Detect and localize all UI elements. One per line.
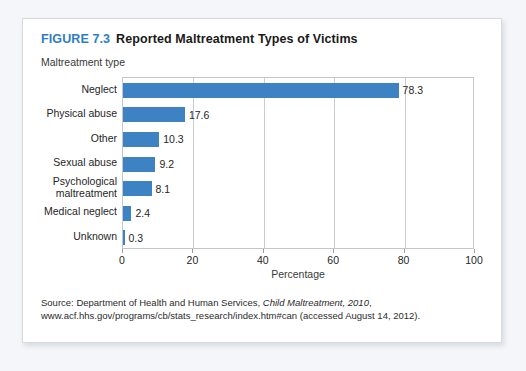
x-tick-mark-0	[122, 249, 123, 253]
bar	[123, 181, 152, 196]
bar-row: 17.6	[123, 107, 475, 122]
category-label: Other	[91, 133, 117, 145]
bar-value-label: 2.4	[135, 207, 150, 219]
bar	[123, 230, 125, 245]
category-label: Medical neglect	[44, 206, 117, 218]
x-axis-title: Percentage	[122, 268, 474, 280]
category-label: Unknown	[73, 231, 117, 243]
bar-value-label: 17.6	[189, 109, 209, 121]
chart-plot-area: 78.317.610.39.28.12.40.3	[122, 77, 474, 249]
category-label-list: NeglectPhysical abuseOtherSexual abusePs…	[23, 77, 117, 249]
bar-value-label: 10.3	[163, 133, 183, 145]
y-axis-title: Maltreatment type	[41, 56, 125, 68]
figure-card: FIGURE 7.3Reported Maltreatment Types of…	[22, 18, 502, 343]
x-axis-ticks: 020406080100	[122, 249, 474, 265]
x-tick-label-20: 20	[187, 254, 199, 266]
figure-number: FIGURE 7.3	[41, 32, 110, 46]
bar-row: 8.1	[123, 181, 475, 196]
x-tick-mark-80	[404, 249, 405, 253]
x-tick-mark-40	[263, 249, 264, 253]
x-tick-mark-60	[333, 249, 334, 253]
figure-title-text: Reported Maltreatment Types of Victims	[116, 32, 358, 46]
bar	[123, 206, 131, 221]
bar-row: 2.4	[123, 206, 475, 221]
bar-value-label: 9.2	[159, 158, 174, 170]
x-tick-label-40: 40	[257, 254, 269, 266]
bar	[123, 107, 185, 122]
bar-row: 10.3	[123, 132, 475, 147]
page-title: FIGURE 7.3Reported Maltreatment Types of…	[41, 32, 358, 46]
bar-row: 9.2	[123, 157, 475, 172]
x-tick-label-60: 60	[327, 254, 339, 266]
category-label: Neglect	[81, 84, 117, 96]
category-label: Physical abuse	[46, 108, 117, 120]
source-note: Source: Department of Health and Human S…	[41, 296, 481, 322]
x-tick-label-100: 100	[465, 254, 483, 266]
x-tick-label-0: 0	[119, 254, 125, 266]
x-tick-mark-20	[192, 249, 193, 253]
x-tick-mark-100	[474, 249, 475, 253]
category-label: Psychological maltreatment	[53, 176, 117, 199]
bar	[123, 157, 155, 172]
bar-row: 78.3	[123, 83, 475, 98]
bar-value-label: 0.3	[129, 232, 144, 244]
source-publication-title: Child Maltreatment, 2010	[263, 297, 369, 308]
bar-value-label: 8.1	[156, 183, 171, 195]
bar	[123, 83, 399, 98]
x-tick-label-80: 80	[398, 254, 410, 266]
bar-row: 0.3	[123, 230, 475, 245]
bar	[123, 132, 159, 147]
bar-value-label: 78.3	[403, 84, 423, 96]
category-label: Sexual abuse	[53, 157, 117, 169]
